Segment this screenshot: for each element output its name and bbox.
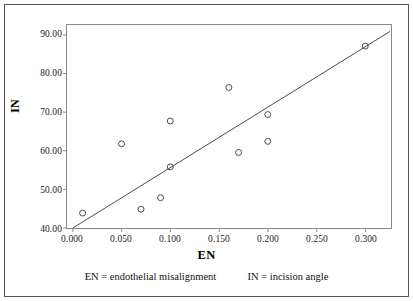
x-tick-label: 0.200 bbox=[257, 234, 279, 244]
x-tick-label: 0.050 bbox=[110, 234, 132, 244]
x-tick-label: 0.300 bbox=[355, 234, 377, 244]
y-tick-label: 60.00 bbox=[40, 146, 62, 156]
y-tick-label: 70.00 bbox=[40, 107, 62, 117]
x-tick-label: 0.100 bbox=[159, 234, 181, 244]
y-tick-label: 40.00 bbox=[40, 224, 62, 234]
caption-en-definition: EN = endothelial misalignment bbox=[85, 271, 217, 282]
y-tick-label: 80.00 bbox=[40, 68, 62, 78]
x-tick-label: 0.000 bbox=[61, 234, 83, 244]
x-axis-title: EN bbox=[0, 248, 413, 263]
y-tick-label: 50.00 bbox=[40, 185, 62, 195]
y-axis-title: IN bbox=[8, 99, 23, 113]
caption-in-definition: IN = incision angle bbox=[247, 271, 328, 282]
x-axis-tick-labels: 0.000 0.050 0.100 0.150 0.200 0.250 0.30… bbox=[0, 234, 413, 248]
plot-area bbox=[66, 24, 392, 229]
x-tick-label: 0.250 bbox=[306, 234, 328, 244]
y-tick-label: 90.00 bbox=[40, 29, 62, 39]
x-tick-label: 0.150 bbox=[208, 234, 230, 244]
scatter-plot-figure: 90.00 80.00 70.00 60.00 50.00 40.00 IN bbox=[0, 0, 413, 301]
axis-tick-marks bbox=[67, 25, 391, 228]
figure-caption: EN = endothelial misalignment IN = incis… bbox=[0, 271, 413, 282]
